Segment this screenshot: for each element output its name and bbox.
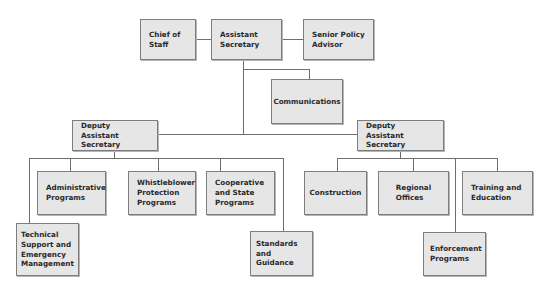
node-label: Chief of Staff — [149, 30, 180, 49]
connector-asst-senior — [281, 39, 303, 40]
node-standards-guidance: Standards and Guidance — [250, 231, 313, 276]
node-label: Administrative Programs — [46, 183, 106, 202]
connector-enforcement-drop — [455, 158, 456, 232]
connector-comm-drop — [309, 69, 310, 79]
connector-left-das-drop — [114, 150, 115, 158]
node-deputy-left: Deputy Assistant Secretary — [72, 120, 158, 151]
node-label: Regional Offices — [396, 183, 431, 202]
connector-left-bus — [29, 158, 284, 159]
connector-admin-drop — [70, 158, 71, 171]
node-label: Cooperative and State Programs — [215, 178, 264, 207]
node-deputy-right: Deputy Assistant Secretary — [357, 120, 444, 151]
node-assistant-secretary: Assistant Secretary — [211, 19, 282, 60]
connector-training-drop — [497, 158, 498, 171]
node-senior-policy-advisor: Senior Policy Advisor — [303, 19, 374, 60]
node-administrative-programs: Administrative Programs — [37, 171, 106, 215]
connector-coop-drop — [220, 158, 221, 171]
node-chief-of-staff: Chief of Staff — [140, 19, 196, 60]
node-regional-offices: Regional Offices — [378, 171, 449, 215]
node-label: Deputy Assistant Secretary — [366, 121, 435, 150]
node-enforcement-programs: Enforcement Programs — [423, 232, 486, 276]
node-training-education: Training and Education — [462, 171, 533, 215]
node-label: Enforcement Programs — [430, 244, 482, 263]
connector-right-bus — [337, 158, 497, 159]
node-cooperative-state: Cooperative and State Programs — [206, 171, 275, 215]
node-label: Standards and Guidance — [256, 239, 307, 268]
connector-right-das-drop — [400, 150, 401, 158]
node-communications: Communications — [271, 79, 343, 124]
connector-construction-drop — [337, 158, 338, 171]
node-label: Whistleblower Protection Programs — [137, 178, 195, 207]
node-label: Assistant Secretary — [220, 30, 259, 49]
node-technical-support: Technical Support and Emergency Manageme… — [16, 223, 79, 276]
node-label: Construction — [310, 188, 362, 198]
connector-asst-trunk — [243, 59, 244, 135]
connector-comm-branch — [243, 69, 309, 70]
node-label: Senior Policy Advisor — [312, 30, 365, 49]
connector-tech-drop — [29, 158, 30, 223]
node-construction: Construction — [304, 171, 367, 215]
connector-chief-asst — [195, 39, 211, 40]
node-label: Communications — [273, 97, 340, 107]
node-label: Deputy Assistant Secretary — [81, 121, 149, 150]
connector-whistle-drop — [158, 158, 159, 171]
connector-regional-drop — [413, 158, 414, 171]
node-whistleblower: Whistleblower Protection Programs — [128, 171, 196, 215]
connector-standards-drop — [283, 158, 284, 231]
node-label: Technical Support and Emergency Manageme… — [21, 230, 74, 269]
node-label: Training and Education — [471, 183, 521, 202]
connector-deputies — [157, 134, 357, 135]
